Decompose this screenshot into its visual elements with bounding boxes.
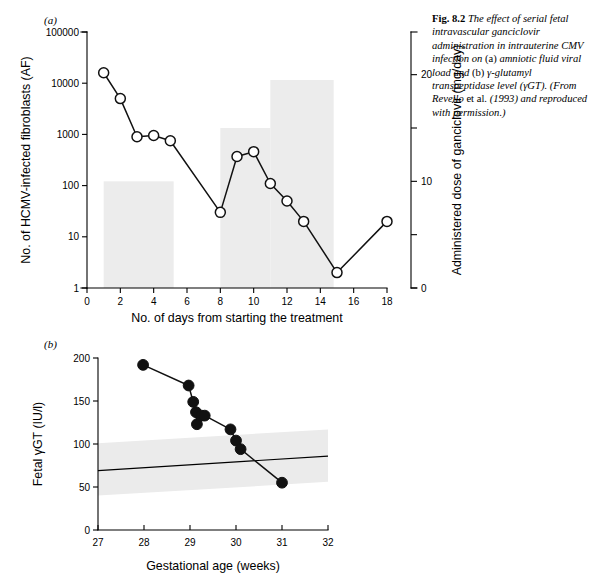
- bottom-tick-label: 0: [84, 296, 90, 307]
- panel-a-y2-axis-title: Administered dose of ganciclovir (mg/day…: [450, 45, 464, 276]
- panel-b-data-point: [183, 380, 194, 391]
- left-tick-label: 1000: [57, 129, 80, 140]
- panel-b-bottom-axis: 272829303132: [92, 525, 334, 548]
- dose-bar-1: [104, 181, 174, 288]
- left-tick-label: 10: [68, 231, 80, 242]
- right-tick-label: 0: [421, 283, 427, 294]
- panel-b-data-point: [225, 424, 236, 435]
- panel-a-right-axis: 01020: [411, 32, 433, 294]
- panel-a-data-point: [132, 132, 142, 142]
- panel-b-left-tick-label: 50: [79, 482, 91, 493]
- panel-b-data-point: [188, 396, 199, 407]
- bottom-tick-label: 10: [248, 296, 260, 307]
- bottom-tick-label: 4: [151, 296, 157, 307]
- panel-a-data-point: [165, 136, 175, 146]
- panel-b-left-axis-ticks: 050100150200: [73, 353, 98, 536]
- bottom-tick-label: 2: [118, 296, 124, 307]
- panel-b-y-axis-title: Fetal γGT (IU/l): [31, 402, 45, 486]
- panel-b-data-point: [277, 477, 288, 488]
- bottom-tick-label: 14: [315, 296, 327, 307]
- panel-b-bottom-tick-label: 29: [184, 537, 196, 548]
- panel-b-bottom-axis-ticks: 272829303132: [92, 525, 334, 548]
- figure-root: Fig. 8.2 The effect of serial fetal intr…: [0, 0, 592, 588]
- bottom-tick-label: 18: [381, 296, 393, 307]
- panel-b-bottom-tick-label: 27: [92, 537, 104, 548]
- normal-range-band: [98, 429, 328, 495]
- right-axis-ticks: 01020: [411, 69, 433, 293]
- panel-b-left-tick-label: 200: [73, 353, 90, 364]
- panel-a-data-point: [265, 178, 275, 188]
- chart-panel-a: 110100100010000100000 024681012141618 01…: [0, 0, 592, 330]
- dose-bars-group: [104, 80, 334, 288]
- panel-b-data-point: [235, 444, 246, 455]
- left-tick-label: 100: [62, 180, 79, 191]
- panel-b-x-axis-title: Gestational age (weeks): [146, 559, 280, 573]
- bottom-tick-label: 16: [348, 296, 360, 307]
- left-tick-label: 10000: [51, 78, 79, 89]
- bottom-axis-ticks: 024681012141618: [84, 288, 393, 307]
- panel-b-left-axis: 050100150200: [73, 353, 98, 536]
- panel-a-x-axis-title: No. of days from starting the treatment: [131, 311, 343, 325]
- panel-b-bottom-tick-label: 30: [230, 537, 242, 548]
- panel-a-data-point: [382, 216, 392, 226]
- left-tick-label: 1: [73, 283, 79, 294]
- left-tick-label: 100000: [46, 27, 80, 38]
- panel-a-bottom-axis: 024681012141618: [84, 288, 393, 307]
- panel-b-left-tick-label: 150: [73, 396, 90, 407]
- bottom-tick-label: 6: [184, 296, 190, 307]
- normal-range-band-group: [98, 429, 328, 495]
- panel-a-data-point: [149, 131, 159, 141]
- panel-a-y-axis-title: No. of HCMV-infected fibroblasts (AF): [19, 56, 33, 263]
- panel-b-bottom-tick-label: 28: [138, 537, 150, 548]
- panel-a-data-point: [115, 94, 125, 104]
- panel-a-data-point: [215, 207, 225, 217]
- bottom-tick-label: 12: [281, 296, 293, 307]
- right-tick-label: 20: [421, 69, 433, 80]
- panel-a-data-point: [99, 68, 109, 78]
- dose-bar-2: [220, 128, 270, 288]
- panel-a-data-point: [249, 147, 259, 157]
- chart-panel-b: 050100150200 272829303132 Fetal γGT (IU/…: [0, 330, 592, 588]
- left-axis-ticks: 110100100010000100000: [46, 27, 87, 294]
- panel-a-data-point: [332, 268, 342, 278]
- panel-b-bottom-tick-label: 31: [276, 537, 288, 548]
- panel-b-left-tick-label: 0: [84, 525, 90, 536]
- panel-a-data-point: [299, 216, 309, 226]
- bottom-tick-label: 8: [218, 296, 224, 307]
- panel-a-data-point: [232, 152, 242, 162]
- panel-b-bottom-tick-label: 32: [322, 537, 334, 548]
- panel-b-data-point: [138, 359, 149, 370]
- panel-b-data-point: [199, 410, 210, 421]
- panel-a-data-point: [282, 196, 292, 206]
- dose-bar-3: [270, 80, 333, 288]
- panel-a-left-axis: 110100100010000100000: [46, 27, 87, 294]
- panel-b-left-tick-label: 100: [73, 439, 90, 450]
- right-tick-label: 10: [421, 176, 433, 187]
